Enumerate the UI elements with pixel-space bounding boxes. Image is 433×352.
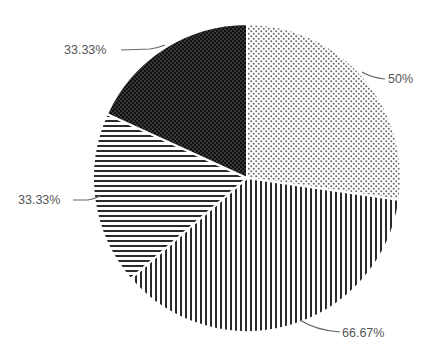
slice-label-33-left: 33.33% [18,193,60,207]
pie-slices [93,24,401,332]
pie-slice-0 [247,24,401,200]
slice-label-50: 50% [388,72,413,86]
slice-label-66: 66.67% [342,326,384,340]
pie-chart: 50% 66.67% 33.33% 33.33% [0,0,433,352]
leader-line-33-top [121,45,165,50]
leader-line-66 [300,320,340,332]
slice-label-33-top: 33.33% [64,43,106,57]
leader-line-50 [362,72,385,79]
